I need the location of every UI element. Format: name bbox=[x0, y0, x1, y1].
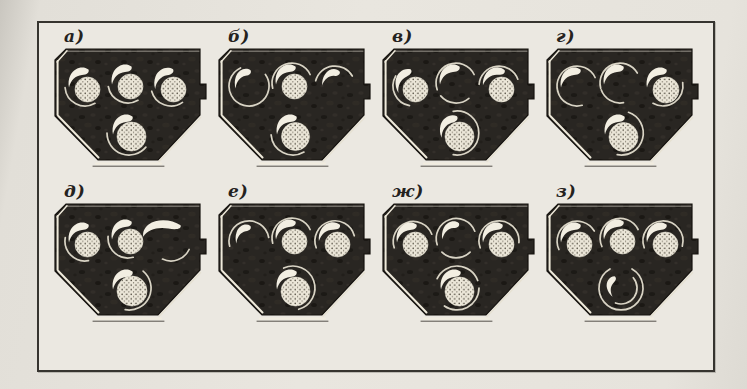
rotor-ball bbox=[75, 232, 100, 257]
housing-body bbox=[547, 204, 698, 315]
rotor-ball bbox=[117, 122, 146, 151]
rotor-ball bbox=[567, 232, 592, 257]
panel-g: г) bbox=[544, 26, 700, 172]
rotor-ball bbox=[282, 229, 307, 254]
panel-z: з) bbox=[544, 181, 700, 327]
rotor-ball bbox=[403, 232, 428, 257]
panel-v: в) bbox=[380, 26, 536, 172]
rotor-ball bbox=[118, 74, 143, 99]
panel-d: д) bbox=[52, 181, 208, 327]
rotor-ball bbox=[118, 229, 143, 254]
rotor-ball bbox=[609, 123, 638, 152]
panel-label: б) bbox=[216, 26, 372, 46]
rotor-ball bbox=[117, 276, 147, 306]
figure-frame: а)б)в)г)д)е)ж)з) bbox=[37, 21, 715, 372]
rotor-ball bbox=[445, 122, 474, 151]
rotor-ball bbox=[282, 123, 310, 151]
rotor-ball bbox=[325, 232, 350, 257]
panel-label: ж) bbox=[380, 181, 536, 201]
panel-label: в) bbox=[380, 26, 536, 46]
panel-label: г) bbox=[544, 26, 700, 46]
panel-label: з) bbox=[544, 181, 700, 201]
rotor-ball bbox=[610, 229, 635, 254]
housing-cross-section bbox=[52, 46, 208, 172]
panel-label: д) bbox=[52, 181, 208, 201]
panel-b: б) bbox=[216, 26, 372, 172]
rotor-ball bbox=[653, 232, 678, 257]
rotor-ball bbox=[489, 232, 514, 257]
rotor-ball bbox=[403, 77, 428, 102]
rotor-ball bbox=[282, 74, 307, 99]
panel-a: а) bbox=[52, 26, 208, 172]
housing-cross-section bbox=[52, 201, 208, 327]
housing-cross-section bbox=[544, 46, 700, 172]
rotor-ball bbox=[75, 77, 100, 102]
panel-label: а) bbox=[52, 26, 208, 46]
housing-cross-section bbox=[544, 201, 700, 327]
housing-cross-section bbox=[216, 201, 372, 327]
housing-cross-section bbox=[380, 201, 536, 327]
rotor-ball bbox=[281, 277, 310, 306]
housing-cross-section bbox=[380, 46, 536, 172]
rotor-ball bbox=[653, 77, 679, 103]
rotor-ball bbox=[445, 277, 474, 306]
panel-zh: ж) bbox=[380, 181, 536, 327]
rotor-ball bbox=[161, 77, 186, 102]
panel-grid: а)б)в)г)д)е)ж)з) bbox=[52, 26, 700, 327]
panel-label: е) bbox=[216, 181, 372, 201]
rotor-ball bbox=[489, 77, 514, 102]
panel-e: е) bbox=[216, 181, 372, 327]
housing-cross-section bbox=[216, 46, 372, 172]
